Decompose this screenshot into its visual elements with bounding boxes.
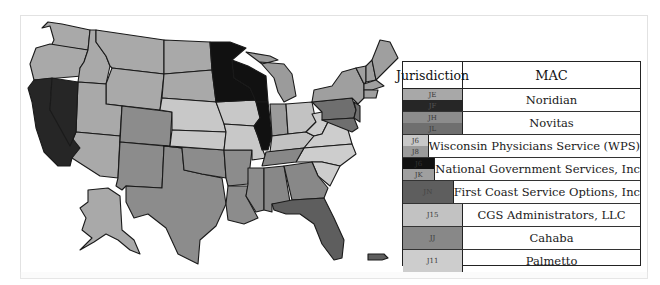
jurisdiction-swatch-jk: JK bbox=[403, 169, 434, 180]
jurisdiction-swatch-j15: J15 bbox=[403, 204, 462, 226]
state-new-york bbox=[312, 68, 364, 104]
jurisdiction-swatch-j6-ngs: J6 bbox=[403, 158, 434, 169]
legend-row-wps: J6 J8 Wisconsin Physicians Service (WPS) bbox=[403, 135, 640, 158]
legend-header-mac: MAC bbox=[463, 62, 640, 88]
legend-row-ngs: J6 JK National Government Services, Inc bbox=[403, 158, 640, 181]
legend-row-cahaba: JJ Cahaba bbox=[403, 227, 640, 250]
jurisdiction-legend-table: Jurisdiction MAC JE JF Noridian JH JL No… bbox=[402, 61, 641, 266]
mac-name: Noridian bbox=[463, 89, 640, 111]
mac-name: Novitas bbox=[463, 112, 640, 134]
state-new-mexico bbox=[116, 142, 164, 190]
legend-row-noridian: JE JF Noridian bbox=[403, 89, 640, 112]
mac-name: CGS Administrators, LLC bbox=[463, 204, 640, 226]
mac-name: Palmetto bbox=[463, 250, 640, 272]
territory-puerto-rico bbox=[368, 254, 388, 260]
state-kansas bbox=[170, 130, 226, 150]
legend-row-first-coast: JN First Coast Service Options, Inc bbox=[403, 181, 640, 204]
state-florida bbox=[272, 198, 344, 260]
mac-name: Wisconsin Physicians Service (WPS) bbox=[429, 135, 640, 157]
jurisdiction-swatch-jl: JL bbox=[403, 123, 462, 134]
legend-row-novitas: JH JL Novitas bbox=[403, 112, 640, 135]
state-maine bbox=[372, 40, 398, 80]
legend-header-jurisdiction: Jurisdiction bbox=[403, 62, 463, 88]
state-connecticut-ri bbox=[364, 90, 378, 98]
jurisdiction-swatch-je: JE bbox=[403, 89, 462, 100]
us-jurisdiction-map bbox=[22, 18, 400, 270]
jurisdiction-swatch-j8: J8 bbox=[403, 146, 428, 157]
jurisdiction-swatch-jh: JH bbox=[403, 112, 462, 123]
state-tennessee bbox=[262, 148, 304, 166]
state-colorado bbox=[120, 106, 172, 146]
jurisdiction-swatch-j11: J11 bbox=[403, 250, 462, 272]
state-wyoming bbox=[106, 68, 164, 110]
legend-header-row: Jurisdiction MAC bbox=[403, 62, 640, 89]
mac-name: Cahaba bbox=[463, 227, 640, 249]
state-south-dakota bbox=[162, 70, 216, 102]
jurisdiction-swatch-jn: JN bbox=[403, 181, 453, 203]
state-arizona bbox=[70, 132, 120, 178]
legend-row-cgs: J15 CGS Administrators, LLC bbox=[403, 204, 640, 227]
figure-caption-strip bbox=[20, 272, 648, 279]
jurisdiction-swatch-jj: JJ bbox=[403, 227, 462, 249]
jurisdiction-swatch-jf: JF bbox=[403, 100, 462, 111]
mac-name: First Coast Service Options, Inc bbox=[454, 181, 640, 203]
state-indiana bbox=[270, 104, 288, 136]
legend-row-palmetto: J11 Palmetto bbox=[403, 250, 640, 272]
mac-name: National Government Services, Inc bbox=[435, 158, 640, 180]
jurisdiction-swatch-j6: J6 bbox=[403, 135, 428, 146]
state-north-dakota bbox=[164, 40, 212, 74]
